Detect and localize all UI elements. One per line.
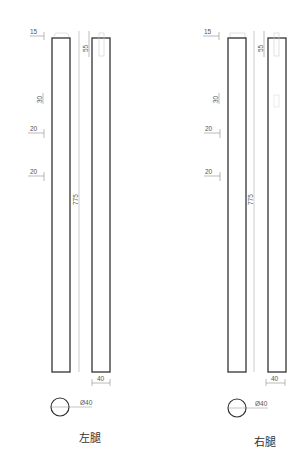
left-dim-30: 30 (36, 95, 43, 103)
left-leg-view: 15 775 55 30 20 20 40 Ø40 左腿 (28, 28, 110, 445)
right-dim-diameter: Ø40 (255, 400, 268, 407)
drawing-canvas: 15 775 55 30 20 20 40 Ø40 左腿 (0, 0, 299, 465)
right-leg-front-rect (228, 38, 246, 372)
right-leg-side-rect (268, 38, 286, 372)
right-dim-40: 40 (271, 375, 279, 382)
right-dim-20b: 20 (205, 168, 213, 175)
left-dim-20a: 20 (30, 125, 38, 132)
right-dim-20a: 20 (205, 125, 213, 132)
left-tenon (99, 33, 104, 56)
right-leg-view: 15 775 55 30 20 20 40 Ø40 右腿 (203, 28, 286, 449)
left-dim-15: 15 (30, 28, 38, 35)
left-dim-20b: 20 (30, 168, 38, 175)
right-leg-caption: 右腿 (254, 435, 276, 449)
left-dim-775: 775 (72, 194, 79, 205)
left-leg-front-rect (52, 38, 70, 372)
left-dim-40: 40 (97, 375, 105, 382)
right-mortise (274, 95, 279, 107)
right-tenon (274, 33, 279, 56)
right-dim-30: 30 (212, 95, 219, 103)
right-dim-15: 15 (204, 28, 212, 35)
right-dim-55: 55 (257, 44, 264, 52)
right-dim-775: 775 (247, 194, 254, 205)
left-leg-caption: 左腿 (79, 432, 101, 445)
left-dim-55: 55 (82, 44, 89, 52)
left-leg-side-rect (92, 38, 110, 372)
right-top-outline (230, 33, 245, 38)
left-top-outline (54, 33, 69, 37)
left-dim-diameter: Ø40 (80, 399, 93, 406)
